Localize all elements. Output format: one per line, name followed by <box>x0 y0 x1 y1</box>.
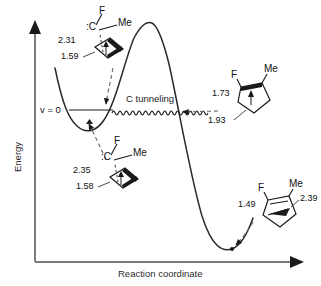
structure-4-distance-2: 2.39 <box>300 194 318 203</box>
structure-2-distance-1: 2.35 <box>73 166 91 175</box>
structure-4-label-Me: Me <box>289 179 303 189</box>
tunneling-label: C tunneling <box>126 94 174 104</box>
structure-1-distance-2: 1.59 <box>61 52 79 61</box>
y-axis-label: Energy <box>13 142 23 172</box>
structure-2-label-F: F <box>114 136 120 146</box>
pointer-mid-right <box>183 111 218 112</box>
structure-3-distance-2: 1.93 <box>208 116 226 125</box>
curve-point-markers <box>86 119 234 251</box>
structure-2-label-Me: Me <box>133 148 147 158</box>
x-axis-label: Reaction coordinate <box>118 269 203 279</box>
structure-4-distance-1: 1.49 <box>238 200 256 209</box>
structure-3-label-Me: Me <box>264 64 278 74</box>
structure-1-label-F: F <box>99 6 105 16</box>
structure-product-cyclopentene <box>263 189 299 227</box>
zero-point-level-label: v = 0 <box>40 105 61 115</box>
structure-1-label-C: :C <box>86 22 96 32</box>
structure-1-distance-1: 2.31 <box>58 36 76 45</box>
structure-2-distance-2: 1.58 <box>76 182 94 191</box>
energy-profile-figure: Energy Reaction coordinate v = 0 C tunne… <box>0 0 321 286</box>
structure-tunneling-transition <box>234 74 270 120</box>
figure-canvas <box>0 0 321 286</box>
structure-3-distance-1: 1.73 <box>212 89 230 98</box>
structure-1-label-Me: Me <box>118 18 132 28</box>
structure-2-label-C: :C <box>101 152 111 162</box>
structure-4-label-F: F <box>258 183 264 193</box>
pointer-upper-left <box>106 68 113 104</box>
structure-3-label-F: F <box>231 70 237 80</box>
